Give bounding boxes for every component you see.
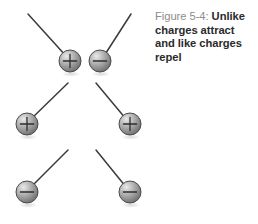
charge-ball-bottom-right-group: [96, 150, 141, 208]
thread-top-right: [104, 14, 131, 56]
charge-ball-mid-left-group: [16, 83, 68, 140]
thread-bottom-left: [31, 150, 68, 187]
charge-ball-top-left-group: [28, 14, 81, 77]
charge-pair-repel-negative: [16, 150, 141, 208]
figure-caption: Figure 5-4: Unlike charges attract and l…: [155, 10, 255, 64]
thread-bottom-right: [96, 150, 126, 187]
figure-container: Figure 5-4: Unlike charges attract and l…: [0, 0, 258, 224]
thread-mid-right: [96, 83, 126, 119]
charge-pair-repel-positive: [16, 83, 141, 140]
charge-ball-top-right-group: [89, 14, 131, 77]
thread-mid-left: [31, 83, 68, 119]
figure-caption-label: Figure 5-4:: [155, 10, 209, 22]
charge-ball-mid-right-group: [96, 83, 141, 140]
charge-pair-attract: [28, 14, 131, 77]
charge-ball-bottom-left-group: [16, 150, 68, 208]
thread-top-left: [28, 14, 66, 56]
